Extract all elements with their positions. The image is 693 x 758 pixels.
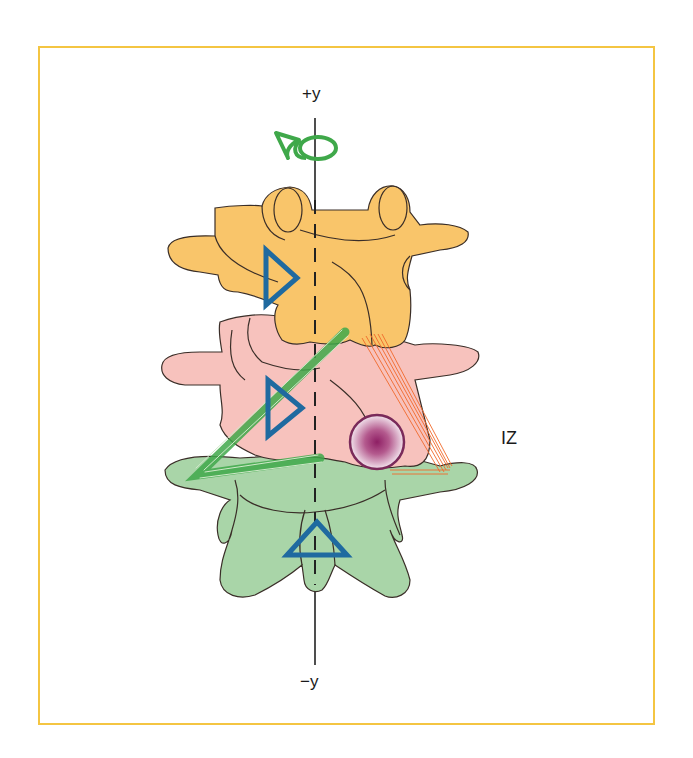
region-label-iz: IZ	[501, 428, 517, 449]
upper-vertebra	[168, 186, 468, 348]
spine-diagram	[0, 0, 693, 758]
lesion-circle	[350, 415, 404, 469]
rotation-symbol	[276, 133, 336, 159]
positive-y-axis-label: +y	[302, 84, 320, 104]
negative-y-axis-label: −y	[300, 672, 318, 692]
